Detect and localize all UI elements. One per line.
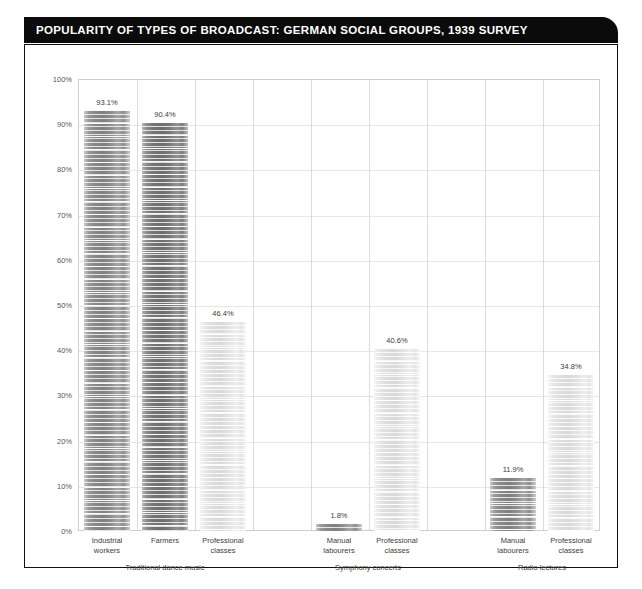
bar-scanlines-coarse <box>84 110 130 531</box>
bar-scanlines-coarse <box>548 374 594 531</box>
category-label-line: Manual <box>484 536 542 546</box>
bar-value-label: 34.8% <box>560 362 581 371</box>
bar-fill <box>142 122 188 531</box>
chart-title: POPULARITY OF TYPES OF BROADCAST: GERMAN… <box>36 17 528 43</box>
category-label-line: workers <box>78 546 136 556</box>
bar-value-label: 1.8% <box>330 511 347 520</box>
column-divider <box>543 80 544 530</box>
category-label-line: Industrial <box>78 536 136 546</box>
category-label-line: classes <box>194 546 252 556</box>
group-label: Traditional dance music <box>78 563 252 572</box>
category-label-line: Professional <box>368 536 426 546</box>
bar-value-label: 40.6% <box>386 336 407 345</box>
category-label: Manuallabourers <box>310 536 368 555</box>
category-label-line: Professional <box>542 536 600 546</box>
y-axis-tick-label: 30% <box>24 391 72 400</box>
category-label: Industrialworkers <box>78 536 136 555</box>
category-label: Professionalclasses <box>194 536 252 555</box>
bar: 11.9% <box>490 477 536 531</box>
column-divider <box>137 80 138 530</box>
bar-scanlines-coarse <box>490 477 536 531</box>
y-axis-tick-label: 70% <box>24 210 72 219</box>
bar-fill <box>548 374 594 531</box>
y-axis-tick-label: 40% <box>24 346 72 355</box>
category-label: Professionalclasses <box>542 536 600 555</box>
y-axis-tick-label: 100% <box>24 75 72 84</box>
bar: 90.4% <box>142 122 188 531</box>
column-divider <box>311 80 312 530</box>
bar: 93.1% <box>84 110 130 531</box>
group-label: Radio lectures <box>484 563 600 572</box>
bar: 1.8% <box>316 523 362 531</box>
chart-figure: POPULARITY OF TYPES OF BROADCAST: GERMAN… <box>24 17 618 570</box>
category-label-line: Farmers <box>136 536 194 546</box>
bar-value-label: 46.4% <box>212 309 233 318</box>
bar-scanlines-coarse <box>142 122 188 531</box>
category-label: Professionalclasses <box>368 536 426 555</box>
y-axis-tick-label: 0% <box>24 527 72 536</box>
y-axis-tick-label: 10% <box>24 481 72 490</box>
chart-plot-wrapper: 0%10%20%30%40%50%60%70%80%90%100% 93.1%9… <box>24 44 618 568</box>
category-label: Farmers <box>136 536 194 546</box>
bar: 40.6% <box>374 348 420 532</box>
bar-value-label: 90.4% <box>154 110 175 119</box>
y-axis-tick-label: 20% <box>24 436 72 445</box>
column-divider <box>195 80 196 530</box>
bar: 46.4% <box>200 321 246 531</box>
bar-fill <box>316 523 362 531</box>
category-label: Manuallabourers <box>484 536 542 555</box>
bar-fill <box>490 477 536 531</box>
y-axis-tick-label: 60% <box>24 255 72 264</box>
y-axis-tick-label: 90% <box>24 120 72 129</box>
column-divider <box>369 80 370 530</box>
column-divider <box>253 80 254 530</box>
group-label: Symphony concerts <box>310 563 426 572</box>
bar-fill <box>84 110 130 531</box>
column-divider <box>427 80 428 530</box>
y-axis-tick-label: 50% <box>24 301 72 310</box>
bar-fill <box>374 348 420 532</box>
bar: 34.8% <box>548 374 594 531</box>
category-label-line: Manual <box>310 536 368 546</box>
column-divider <box>485 80 486 530</box>
bar-fill <box>200 321 246 531</box>
category-label-line: Professional <box>194 536 252 546</box>
category-label-line: classes <box>368 546 426 556</box>
bar-value-label: 11.9% <box>503 465 524 474</box>
category-label-line: labourers <box>310 546 368 556</box>
bar-scanlines-coarse <box>316 523 362 531</box>
category-label-line: classes <box>542 546 600 556</box>
y-axis-tick-label: 80% <box>24 165 72 174</box>
bar-value-label: 93.1% <box>96 98 117 107</box>
bar-scanlines-coarse <box>200 321 246 531</box>
chart-title-bar: POPULARITY OF TYPES OF BROADCAST: GERMAN… <box>24 17 618 43</box>
category-label-line: labourers <box>484 546 542 556</box>
bar-scanlines-coarse <box>374 348 420 532</box>
